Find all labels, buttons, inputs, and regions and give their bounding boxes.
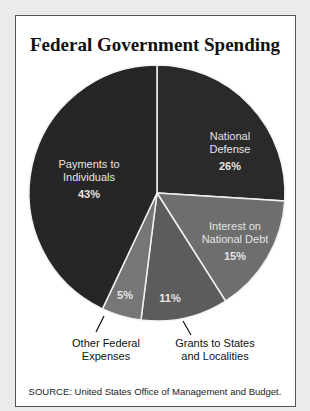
- pie-chart: [0, 0, 310, 411]
- source-note: SOURCE: United States Office of Manageme…: [0, 386, 310, 397]
- pct-other: 5%: [113, 289, 137, 302]
- label-payments-to-individuals: Payments to Individuals 43%: [44, 158, 134, 201]
- pct-grants: 11%: [155, 292, 185, 305]
- label-national-defense: National Defense 26%: [190, 130, 270, 173]
- label-other-federal-expenses: Other Federal Expenses: [66, 337, 146, 363]
- leader-line-grants: [183, 321, 191, 335]
- label-interest-national-debt: Interest on National Debt 15%: [185, 220, 285, 263]
- leader-line-other: [96, 316, 104, 332]
- label-grants-states-localities: Grants to States and Localities: [170, 337, 260, 363]
